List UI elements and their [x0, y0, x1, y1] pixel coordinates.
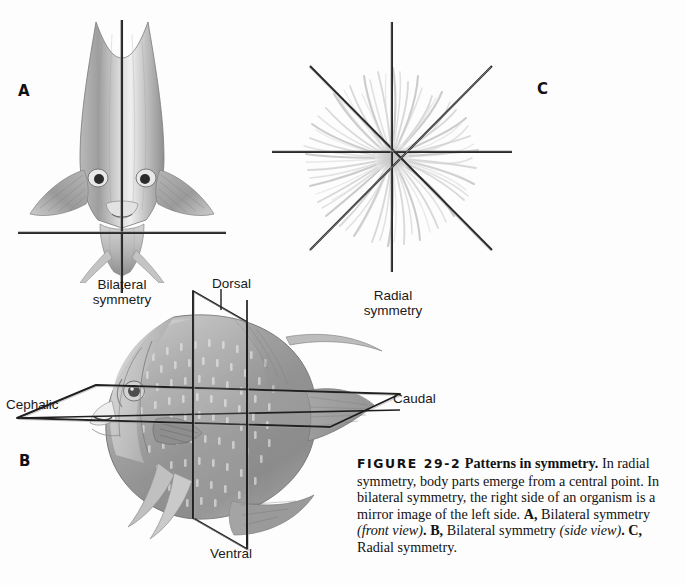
pupil [128, 385, 140, 397]
oral-disc [375, 141, 409, 175]
panel-b-label-dorsal: Dorsal [212, 276, 292, 291]
panel-a-artwork [28, 18, 223, 283]
panel-b-letter: B [19, 452, 30, 470]
panel-b-label-ventral: Ventral [210, 546, 290, 561]
figure-number: FIGURE 29-2 [357, 456, 461, 471]
figure-part-b-letter: . B, [423, 522, 443, 538]
fish-body-front [80, 22, 164, 228]
pupil-right [140, 174, 150, 184]
figure-part-b-text: Bilateral symmetry [443, 522, 559, 538]
figure-part-c-letter: . C, [621, 522, 642, 538]
figure-part-a-italic: (front view) [357, 522, 423, 538]
dorsal-filament [286, 334, 382, 351]
panel-b-label-caudal: Caudal [393, 391, 473, 406]
pectoral-fin-left [30, 170, 88, 216]
panel-a-letter: A [18, 82, 30, 100]
fish-lower-body [100, 224, 144, 276]
figure-part-c-text: Radial symmetry. [357, 539, 457, 555]
pectoral-fin-right [156, 170, 214, 216]
panel-b-label-cephalic: Cephalic [6, 397, 86, 412]
eye-highlight [130, 387, 134, 391]
figure-page: A Bilateral symmetry [0, 0, 685, 585]
snout [90, 401, 116, 425]
figure-part-b-italic: (side view) [559, 522, 621, 538]
pupil-left [94, 174, 104, 184]
figure-caption: FIGURE 29-2 Patterns in symmetry. In rad… [357, 455, 679, 556]
panel-b-artwork [82, 295, 392, 545]
panel-c-letter: C [537, 80, 548, 98]
figure-part-a-text: Bilateral symmetry [537, 506, 650, 522]
figure-part-a-letter: A, [524, 506, 538, 522]
panel-c-artwork [272, 38, 512, 278]
figure-title: Patterns in symmetry. [465, 455, 599, 471]
